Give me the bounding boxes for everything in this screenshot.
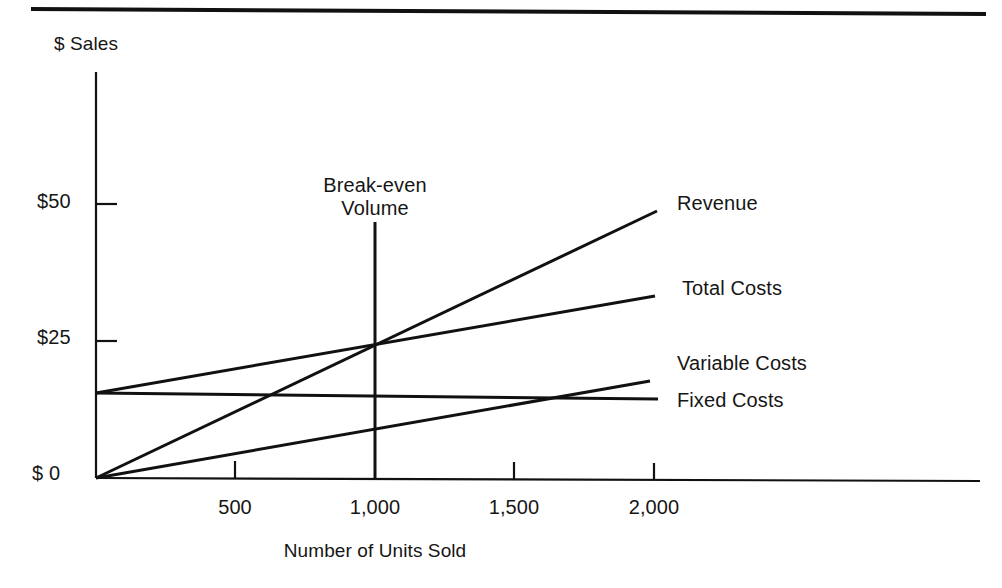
y-tick-label-50: $50 xyxy=(37,190,71,213)
y-tick-label-25: $25 xyxy=(37,326,71,349)
x-axis-title: Number of Units Sold xyxy=(284,540,467,562)
break-even-annotation-line-2: Volume xyxy=(323,197,426,220)
series-label-variable-costs: Variable Costs xyxy=(677,352,807,375)
x-axis-line xyxy=(96,478,980,481)
x-tick-label-500: 500 xyxy=(218,496,252,519)
break-even-chart-figure: $ Sales $50 $25 $ 0 500 1,000 1,500 2,00… xyxy=(0,0,1002,588)
series-label-total-costs: Total Costs xyxy=(682,277,782,300)
break-even-annotation-line-1: Break-even xyxy=(323,174,426,197)
series-label-revenue: Revenue xyxy=(677,192,758,215)
y-tick-label-0: $ 0 xyxy=(32,462,60,485)
break-even-volume-annotation: Break-even Volume xyxy=(323,174,426,220)
x-tick-label-2000: 2,000 xyxy=(629,496,680,519)
series-label-fixed-costs: Fixed Costs xyxy=(677,389,784,412)
x-tick-label-1000: 1,000 xyxy=(350,496,401,519)
y-axis-title: $ Sales xyxy=(54,33,118,55)
top-divider-rule xyxy=(31,9,986,14)
x-tick-label-1500: 1,500 xyxy=(489,496,540,519)
